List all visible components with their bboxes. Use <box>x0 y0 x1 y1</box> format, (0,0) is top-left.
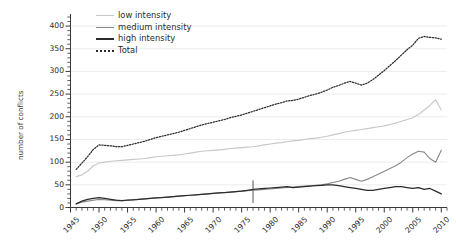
y-tick-label: 200 <box>36 112 64 121</box>
legend-swatch-medium-intensity <box>96 27 114 28</box>
legend-label: high intensity <box>118 33 175 43</box>
y-tick-label: 250 <box>36 89 64 98</box>
legend-swatch-total <box>96 50 114 52</box>
series-line-high-intensity <box>76 185 441 204</box>
plot-area <box>0 0 456 248</box>
legend-swatch-low-intensity <box>96 15 114 16</box>
y-tick-label: 50 <box>36 180 64 189</box>
y-tick-label: 150 <box>36 134 64 143</box>
y-tick-label: 100 <box>36 157 64 166</box>
series-line-medium-intensity <box>76 150 441 204</box>
y-tick-label: 300 <box>36 66 64 75</box>
y-tick-label: 350 <box>36 44 64 53</box>
legend-label: medium intensity <box>118 22 191 32</box>
legend-swatch-high-intensity <box>96 38 114 40</box>
series-line-total <box>76 37 441 170</box>
y-tick-label: 400 <box>36 21 64 30</box>
series-line-low-intensity <box>76 100 441 177</box>
y-tick-label: 0 <box>36 203 64 212</box>
conflicts-line-chart: number of conflicts 05010015020025030035… <box>0 0 456 248</box>
legend-label: Total <box>118 45 138 55</box>
legend-label: low intensity <box>118 10 171 20</box>
